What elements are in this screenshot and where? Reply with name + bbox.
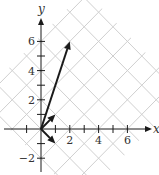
diagonal-grid — [0, 0, 159, 175]
ticks — [27, 41, 128, 158]
grid-line — [0, 0, 159, 71]
grid-line — [0, 12, 159, 175]
long-vector — [41, 41, 71, 129]
axes — [4, 18, 152, 172]
y-axis-label: y — [37, 2, 45, 16]
vector-down-right-shaft — [41, 129, 50, 138]
grid-line — [0, 12, 159, 175]
x-tick-label: 6 — [124, 134, 131, 147]
grid-line — [0, 0, 159, 158]
x-axis-arrowhead — [145, 126, 152, 132]
y-tick-label: −2 — [19, 152, 35, 165]
grid-line — [0, 0, 159, 41]
x-tick-label: 4 — [95, 134, 102, 147]
x-tick-label: 2 — [66, 134, 73, 147]
y-tick-label: 4 — [28, 65, 35, 78]
vector-plot: 246−2246 x y — [0, 0, 159, 175]
vector-down-right — [41, 129, 55, 144]
y-tick-label: 2 — [28, 94, 35, 107]
y-axis-arrowhead — [38, 18, 44, 25]
grid-line — [0, 0, 159, 71]
y-tick-label: 6 — [28, 35, 35, 48]
x-axis-label: x — [153, 122, 159, 136]
